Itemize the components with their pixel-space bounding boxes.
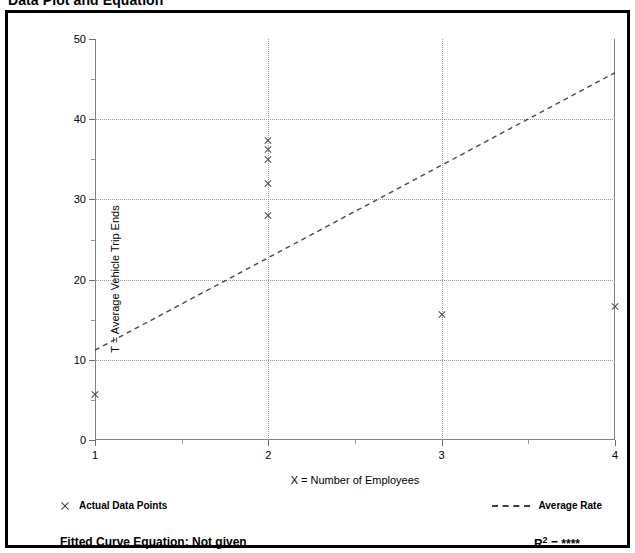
data-point-marker: [264, 145, 273, 154]
fitted-curve-equation: Fitted Curve Equation: Not given: [60, 535, 247, 549]
y-axis-tick-label: 20: [74, 274, 86, 286]
x-axis-tick-label: 3: [439, 449, 445, 461]
chart-legend: Actual Data Points Average Rate: [8, 500, 627, 520]
r-squared-exponent: 2: [543, 535, 548, 545]
legend-label-actual-data-points: Actual Data Points: [79, 500, 167, 511]
y-axis-tick-label: 50: [74, 33, 86, 45]
y-axis-tick-label: 10: [74, 354, 86, 366]
x-axis-title: X = Number of Employees: [95, 474, 615, 486]
x-axis-minor-tick: [182, 440, 183, 444]
data-point-marker: [611, 302, 620, 311]
x-axis-tick: [268, 440, 269, 446]
y-axis-tick-label: 0: [80, 434, 86, 446]
r-squared-symbol: R: [534, 537, 543, 551]
chart-card: T = Average Vehicle Trip Ends X = Number…: [5, 10, 630, 548]
x-axis-tick: [615, 440, 616, 446]
x-axis-tick: [442, 440, 443, 446]
data-point-marker: [264, 211, 273, 220]
data-point-marker: [264, 179, 273, 188]
x-axis-minor-tick: [355, 440, 356, 444]
average-rate-trendline: [95, 39, 615, 440]
x-axis-tick: [95, 440, 96, 446]
x-axis-tick-label: 1: [92, 449, 98, 461]
data-point-marker: [437, 310, 446, 319]
data-point-marker: [264, 136, 273, 145]
chart-footer: Fitted Curve Equation: Not given R2 = **…: [8, 535, 627, 553]
dashed-line-icon: [492, 505, 530, 507]
legend-label-average-rate: Average Rate: [538, 500, 602, 511]
data-point-marker: [91, 390, 100, 399]
x-marker-icon: [60, 501, 70, 511]
y-axis-tick-label: 30: [74, 193, 86, 205]
page-title: Data Plot and Equation: [8, 0, 163, 8]
r-squared-value: R2 = ****: [534, 535, 580, 551]
legend-item-average-rate: Average Rate: [492, 500, 602, 511]
y-axis-tick-label: 40: [74, 113, 86, 125]
r-squared-number: = ****: [551, 537, 580, 551]
data-point-marker: [264, 155, 273, 164]
x-axis-minor-tick: [528, 440, 529, 444]
legend-item-actual-data-points: Actual Data Points: [60, 500, 167, 511]
plot-area: 01020304050 1234: [95, 39, 615, 440]
x-axis-tick-label: 2: [265, 449, 271, 461]
x-axis-tick-label: 4: [612, 449, 618, 461]
